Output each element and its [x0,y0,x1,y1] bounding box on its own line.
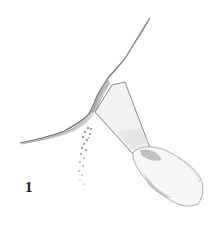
hand-icon [133,147,203,206]
illustration: 1 [0,0,222,226]
falling-debris [78,127,92,185]
step-number-label: 1 [25,180,33,195]
